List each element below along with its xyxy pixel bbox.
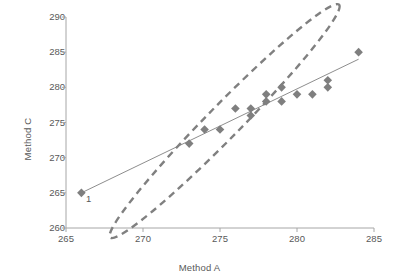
data-point	[200, 125, 209, 134]
data-point	[277, 97, 286, 106]
data-point	[324, 76, 333, 85]
axis-lines	[62, 17, 374, 232]
data-point	[262, 90, 271, 99]
annotation-label: 1	[86, 193, 91, 204]
plot-area: 1	[0, 0, 399, 277]
data-points	[77, 48, 363, 197]
point-annotations: 1	[86, 193, 91, 204]
data-point	[77, 189, 86, 198]
scatter-chart: Method C Method A 260265270275280285290 …	[0, 0, 399, 277]
confidence-ellipse	[98, 0, 350, 249]
data-point	[247, 104, 256, 113]
data-point	[354, 48, 363, 57]
data-point	[293, 90, 302, 99]
data-point	[277, 83, 286, 92]
data-point	[185, 139, 194, 148]
data-point	[231, 104, 240, 113]
data-point	[216, 125, 225, 134]
data-point	[308, 90, 317, 99]
